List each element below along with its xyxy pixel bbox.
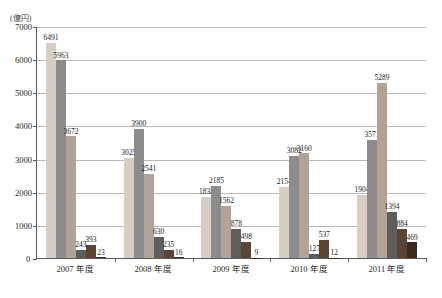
bar-value-label: 235 (163, 241, 174, 249)
bar-series-1: 6491 (46, 43, 56, 258)
plot-area: 6491596336722433932330253900254163023516… (36, 27, 426, 259)
bar-series-6: 16 (174, 257, 184, 258)
bar-series-1: 1838 (201, 197, 211, 258)
bar-series-4: 127 (309, 254, 319, 258)
bar-value-label: 3672 (63, 128, 78, 136)
bar-series-3: 3160 (299, 153, 309, 258)
bar-value-label: 469 (406, 234, 417, 242)
bar-series-1: 3025 (124, 158, 134, 258)
bar-series-4: 243 (76, 250, 86, 258)
x-axis-category-label: 2008 年度 (114, 262, 192, 274)
bars: 1904357152891394884469 (348, 27, 426, 258)
bar-value-label: 2541 (141, 165, 156, 173)
bar-value-label: 2185 (209, 177, 224, 185)
bar-value-label: 393 (85, 236, 96, 244)
bars: 21543082316012753712 (270, 27, 348, 258)
x-axis-category-label: 2010 年度 (270, 262, 348, 274)
bar-value-label: 3900 (131, 120, 146, 128)
bar-group: 1838218515628784989 (193, 27, 271, 258)
y-axis-tick (33, 259, 37, 260)
bar-series-2: 3900 (134, 129, 144, 258)
bar-series-5: 498 (241, 242, 251, 259)
y-axis-tick-label: 4000 (2, 121, 32, 131)
bar-value-label: 6491 (43, 34, 58, 42)
bars: 30253900254163023516 (115, 27, 193, 258)
x-axis-category-label: 2007 年度 (36, 262, 114, 274)
bar-series-2: 3571 (367, 140, 377, 258)
x-axis-tick (426, 258, 427, 262)
bar-series-2: 3082 (289, 156, 299, 258)
bar-group: 64915963367224339323 (37, 27, 115, 258)
bar-series-5: 235 (164, 250, 174, 258)
bar-groups: 6491596336722433932330253900254163023516… (37, 27, 426, 258)
y-axis-tick-label: 6000 (2, 55, 32, 65)
bar-value-label: 3160 (297, 145, 312, 153)
bar-value-label: 498 (241, 233, 252, 241)
x-axis-category-label: 2009 年度 (192, 262, 270, 274)
bar-value-label: 878 (231, 220, 242, 228)
bar-series-6: 23 (96, 257, 106, 258)
y-axis-zero-label: 0 (26, 254, 30, 264)
bar-series-3: 1562 (221, 206, 231, 258)
bar-group: 30253900254163023516 (115, 27, 193, 258)
bar-value-label: 12 (331, 249, 339, 257)
bar-series-3: 2541 (144, 174, 154, 258)
y-axis-tick-label: 2000 (2, 188, 32, 198)
bar-group: 21543082316012753712 (270, 27, 348, 258)
y-axis-tick-label: 1000 (2, 221, 32, 231)
bar-value-label: 630 (153, 228, 164, 236)
bar-series-1: 2154 (279, 187, 289, 258)
bar-value-label: 127 (309, 245, 320, 253)
bar-series-6: 469 (407, 242, 417, 258)
bar-value-label: 5963 (53, 52, 68, 60)
bar-value-label: 5289 (375, 74, 390, 82)
bar-series-1: 1904 (357, 195, 367, 258)
bar-value-label: 1394 (385, 203, 400, 211)
bar-series-2: 5963 (56, 60, 66, 258)
bar-value-label: 9 (255, 249, 259, 257)
y-axis-tick-label: 7000 (2, 22, 32, 32)
bars: 64915963367224339323 (37, 27, 115, 258)
bar-value-label: 1562 (219, 197, 234, 205)
x-axis-category-label: 2011 年度 (348, 262, 426, 274)
bar-series-3: 5289 (377, 83, 387, 258)
bar-chart: (億円) 0 649159633672243393233025390025416… (0, 0, 442, 298)
bars: 1838218515628784989 (193, 27, 271, 258)
bar-series-5: 393 (86, 245, 96, 258)
bar-group: 1904357152891394884469 (348, 27, 426, 258)
bar-value-label: 884 (396, 220, 407, 228)
bar-value-label: 537 (319, 231, 330, 239)
x-axis-labels: 2007 年度2008 年度2009 年度2010 年度2011 年度 (36, 262, 426, 274)
y-axis-tick-label: 3000 (2, 155, 32, 165)
y-axis-tick-label: 5000 (2, 88, 32, 98)
bar-value-label: 23 (97, 249, 105, 257)
bar-series-5: 537 (319, 240, 329, 258)
bar-value-label: 16 (175, 249, 183, 257)
